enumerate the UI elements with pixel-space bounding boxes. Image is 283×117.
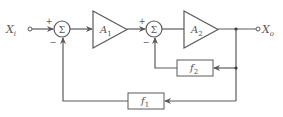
summing-junction-1: Σ + − <box>46 17 70 47</box>
block-diagram: Xi Σ + − A1 Σ + − A2 <box>0 0 283 117</box>
input-terminal: Xi <box>5 23 32 38</box>
summing-junction-2: Σ + − <box>139 17 162 47</box>
amplifier-a2: A2 <box>184 11 218 48</box>
sum1-plus-sign: + <box>46 17 53 26</box>
feedback-block-f1: f1 <box>128 93 164 109</box>
input-node-icon <box>28 27 32 31</box>
sum2-plus-sign: + <box>139 17 146 26</box>
sum1-symbol: Σ <box>59 25 65 35</box>
wire-f1-to-sum1 <box>63 38 128 101</box>
feedback-block-f2: f2 <box>177 60 213 76</box>
sum2-minus-sign: − <box>143 38 150 47</box>
output-node-icon <box>256 27 260 31</box>
wire-f2-to-sum2 <box>155 38 177 68</box>
output-terminal: Xo <box>256 23 274 38</box>
input-label: Xi <box>5 23 16 38</box>
amplifier-a1: A1 <box>93 11 127 48</box>
output-label: Xo <box>261 23 274 38</box>
sum1-minus-sign: − <box>50 38 57 47</box>
sum2-symbol: Σ <box>151 25 157 35</box>
